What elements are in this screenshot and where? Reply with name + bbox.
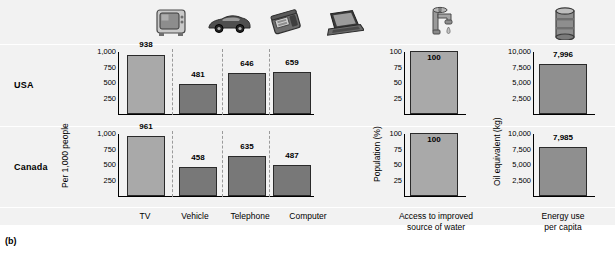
television-icon [150, 4, 194, 42]
ytick-1000-canada: 1,000 [97, 130, 118, 138]
bar-value-usa-energy: 7,996 [539, 51, 587, 59]
ytick-500-usa: 500 [103, 79, 118, 87]
bar-value-canada-telephone: 635 [228, 143, 266, 151]
telephone-icon [263, 4, 309, 42]
ytick-2500-energy-canada: 2,500 [512, 177, 533, 185]
ytick-100-water-usa: 100 [389, 48, 404, 56]
ytick-10000-energy-usa: 10,000 [508, 48, 533, 56]
ytick-50-water-canada: 50 [394, 161, 404, 169]
ytick-5000-energy-canada: 5,000 [512, 161, 533, 169]
ytick-25-water-usa: 25 [394, 95, 404, 103]
ytick-25-water-canada: 25 [394, 177, 404, 185]
car-icon [203, 4, 255, 42]
ytick-7500-energy-usa: 7,500 [512, 64, 533, 72]
plot-goods-canada: 1,000 750 500 250 961 458 635 487 [118, 134, 314, 197]
figure-panel-b: USA Canada Per 1,000 people Population (… [0, 0, 615, 225]
axis-label-population-percent: Population (%) [372, 126, 382, 182]
ytick-75-water-usa: 75 [394, 64, 404, 72]
faucet-icon [425, 4, 471, 42]
bar-usa-computer [273, 72, 311, 114]
caption-tv: TV [118, 211, 172, 222]
laptop-icon [318, 4, 368, 42]
separator-telephone-computer [269, 131, 270, 197]
ytick-750-usa: 750 [103, 64, 118, 72]
bar-usa-energy [539, 64, 587, 114]
bar-value-usa-computer: 659 [273, 59, 311, 67]
figure-letter: (b) [5, 236, 17, 246]
row-label-canada: Canada [14, 162, 80, 172]
bar-value-canada-tv: 961 [127, 123, 165, 131]
ytick-50-water-usa: 50 [394, 79, 404, 87]
caption-energy: Energy use per capita [518, 211, 608, 233]
separator-tv-vehicle [172, 49, 173, 115]
axis-label-oil-equivalent: Oil equivalent (kg) [492, 117, 502, 186]
bar-canada-tv [127, 136, 165, 196]
separator-telephone-computer [269, 49, 270, 115]
caption-telephone: Telephone [218, 211, 282, 222]
separator-vehicle-telephone [222, 49, 223, 115]
ytick-250-canada: 250 [103, 177, 118, 185]
plot-energy-usa: 10,000 7,500 5,000 2,500 7,996 [533, 52, 595, 115]
icon-band [0, 0, 615, 45]
ytick-2500-energy-usa: 2,500 [512, 95, 533, 103]
separator-tv-vehicle [172, 131, 173, 197]
axis-label-per-1000-people: Per 1,000 people [60, 123, 70, 188]
ytick-750-canada: 750 [103, 146, 118, 154]
bar-value-usa-telephone: 646 [228, 60, 266, 68]
plot-energy-canada: 10,000 7,500 5,000 2,500 7,985 [533, 134, 595, 197]
caption-computer: Computer [276, 211, 340, 222]
caption-water: Access to improved source of water [383, 211, 489, 233]
plot-goods-usa: 1,000 750 500 250 938 481 646 659 [118, 52, 314, 115]
bar-canada-telephone [228, 156, 266, 196]
separator-vehicle-telephone [222, 131, 223, 197]
oil-barrel-icon [545, 4, 585, 42]
ytick-7500-energy-canada: 7,500 [512, 146, 533, 154]
plot-water-canada: 100 75 50 25 100 [404, 134, 466, 197]
row-label-usa: USA [14, 80, 80, 90]
plot-water-usa: 100 75 50 25 100 [404, 52, 466, 115]
bar-value-canada-water: 100 [410, 136, 458, 144]
bar-value-canada-computer: 487 [273, 152, 311, 160]
ytick-5000-energy-usa: 5,000 [512, 79, 533, 87]
bar-canada-vehicle [179, 167, 217, 196]
ytick-250-usa: 250 [103, 95, 118, 103]
bar-value-usa-vehicle: 481 [179, 71, 217, 79]
ytick-10000-energy-canada: 10,000 [508, 130, 533, 138]
bar-usa-vehicle [179, 84, 217, 114]
ytick-100-water-canada: 100 [389, 130, 404, 138]
ytick-75-water-canada: 75 [394, 146, 404, 154]
bar-canada-computer [273, 165, 311, 196]
caption-vehicle: Vehicle [167, 211, 223, 222]
ytick-500-canada: 500 [103, 161, 118, 169]
bar-value-canada-vehicle: 458 [179, 154, 217, 162]
bar-usa-tv [127, 55, 165, 114]
bar-value-canada-energy: 7,985 [539, 134, 587, 142]
bar-canada-energy [539, 147, 587, 196]
bar-usa-telephone [228, 73, 266, 114]
ytick-1000-usa: 1,000 [97, 48, 118, 56]
bar-value-usa-water: 100 [410, 54, 458, 62]
bar-value-usa-tv: 938 [127, 41, 165, 49]
